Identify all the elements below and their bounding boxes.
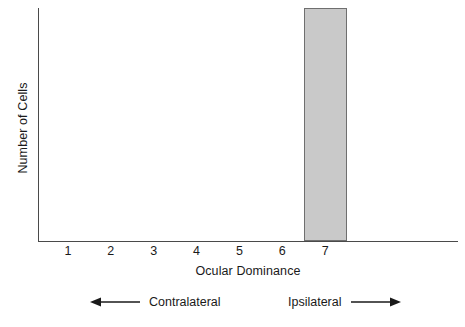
ocular-dominance-histogram-figure: Number of Cells 1234567 Ocular Dominance… xyxy=(0,0,465,327)
x-tick-label-7: 7 xyxy=(310,243,340,259)
bar-7 xyxy=(304,8,347,241)
x-tick-label-4: 4 xyxy=(182,243,212,259)
x-tick-label-3: 3 xyxy=(139,243,169,259)
y-axis-label: Number of Cells xyxy=(14,8,32,248)
x-tick-label-5: 5 xyxy=(224,243,254,259)
bar-series xyxy=(38,8,458,241)
x-tick-label-6: 6 xyxy=(267,243,297,259)
annotation-ipsilateral: Ipsilateral xyxy=(288,292,401,312)
x-axis-label: Ocular Dominance xyxy=(38,264,458,278)
arrow-right-icon xyxy=(351,296,401,308)
x-axis-tick-labels: 1234567 xyxy=(38,243,458,259)
annotation-contralateral: Contralateral xyxy=(90,292,221,312)
arrow-left-icon xyxy=(90,296,140,308)
direction-annotations: Contralateral Ipsilateral xyxy=(0,292,465,312)
x-tick-label-1: 1 xyxy=(53,243,83,259)
annotation-ipsilateral-label: Ipsilateral xyxy=(288,292,342,312)
x-tick-label-2: 2 xyxy=(96,243,126,259)
annotation-contralateral-label: Contralateral xyxy=(149,292,221,312)
